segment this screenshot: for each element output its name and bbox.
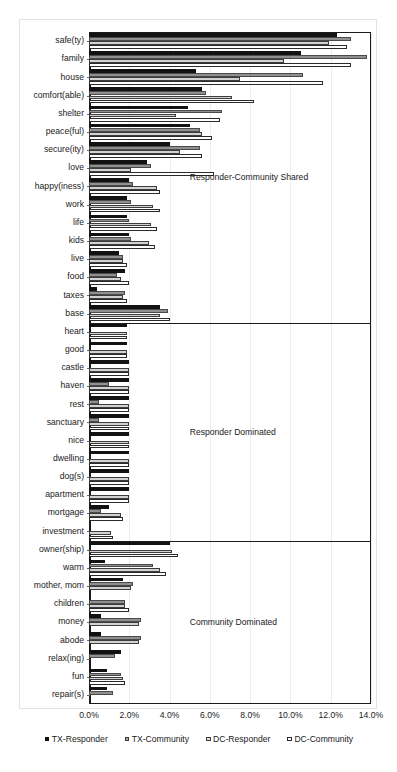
group-separator bbox=[89, 541, 371, 543]
y-axis-label: secure(ity) bbox=[6, 145, 84, 154]
bar-dc-responder bbox=[89, 640, 139, 644]
bar-tx-responder bbox=[89, 451, 129, 455]
bar-tx-responder bbox=[89, 469, 129, 473]
y-axis-label: mortgage bbox=[6, 508, 84, 517]
y-axis-label: abode bbox=[6, 636, 84, 645]
bar-row: mortgage bbox=[20, 504, 378, 522]
bar-tx-community bbox=[89, 654, 115, 658]
bar-dc-community bbox=[89, 463, 129, 467]
bar-row: heart bbox=[20, 323, 378, 341]
bar-dc-community bbox=[89, 536, 113, 540]
bar-row: shelter bbox=[20, 105, 378, 123]
y-axis-label: castle bbox=[6, 363, 84, 372]
bar-dc-community bbox=[89, 572, 166, 576]
legend-swatch-icon bbox=[125, 737, 130, 742]
y-axis-label: life bbox=[6, 218, 84, 227]
bar-row: family bbox=[20, 50, 378, 68]
x-axis-tick-label: 10.0% bbox=[278, 710, 302, 720]
legend-label: DC-Responder bbox=[213, 734, 270, 744]
bar-dc-community bbox=[89, 336, 127, 340]
bar-dc-community bbox=[89, 263, 127, 267]
bar-row: comfort(able) bbox=[20, 86, 378, 104]
legend-swatch-icon bbox=[287, 737, 292, 742]
y-axis-label: investment bbox=[6, 527, 84, 536]
bar-dc-community bbox=[89, 681, 125, 685]
legend-item[interactable]: TX-Responder bbox=[45, 734, 108, 744]
bar-row: children bbox=[20, 595, 378, 613]
legend-swatch-icon bbox=[45, 737, 50, 742]
bar-dc-community bbox=[89, 354, 127, 358]
y-axis-label: fun bbox=[6, 672, 84, 681]
x-axis-tick-label: 2.0% bbox=[119, 710, 139, 720]
y-axis-label: children bbox=[6, 599, 84, 608]
legend-label: TX-Responder bbox=[52, 734, 108, 744]
y-axis-tick bbox=[87, 695, 90, 696]
bar-dc-community bbox=[89, 63, 351, 67]
bar-dc-community bbox=[89, 45, 347, 49]
legend-item[interactable]: DC-Responder bbox=[206, 734, 270, 744]
chart-container: safe(ty)familyhousecomfort(able)shelterp… bbox=[19, 19, 377, 709]
y-axis-label: nice bbox=[6, 436, 84, 445]
bar-row: repair(s) bbox=[20, 686, 378, 704]
y-axis-label: haven bbox=[6, 381, 84, 390]
y-axis-label: warm bbox=[6, 563, 84, 572]
bar-dc-community bbox=[89, 227, 157, 231]
bar-row: work bbox=[20, 195, 378, 213]
legend-item[interactable]: DC-Community bbox=[287, 734, 353, 744]
bar-row: kids bbox=[20, 232, 378, 250]
bar-row: investment bbox=[20, 522, 378, 540]
group-separator bbox=[89, 323, 371, 325]
bar-row: fun bbox=[20, 668, 378, 686]
y-axis-label: good bbox=[6, 345, 84, 354]
bar-dc-community bbox=[89, 81, 323, 85]
y-axis-label: heart bbox=[6, 327, 84, 336]
y-axis-label: live bbox=[6, 254, 84, 263]
bar-row: rest bbox=[20, 395, 378, 413]
y-axis-label: work bbox=[6, 200, 84, 209]
y-axis-label: money bbox=[6, 617, 84, 626]
bar-dc-community bbox=[89, 372, 129, 376]
bar-dc-community bbox=[89, 100, 254, 104]
y-axis-label: safe(ty) bbox=[6, 36, 84, 45]
legend-swatch-icon bbox=[206, 737, 211, 742]
bar-row: base bbox=[20, 304, 378, 322]
bar-dc-community bbox=[89, 190, 160, 194]
y-axis-label: owner(ship) bbox=[6, 545, 84, 554]
x-axis-tick-label: 14.0% bbox=[359, 710, 383, 720]
bar-row: food bbox=[20, 268, 378, 286]
bar-tx-responder bbox=[89, 342, 127, 346]
x-axis-tick-label: 6.0% bbox=[200, 710, 220, 720]
bar-row: live bbox=[20, 250, 378, 268]
legend-item[interactable]: TX-Community bbox=[125, 734, 189, 744]
bar-row: owner(ship) bbox=[20, 541, 378, 559]
bar-dc-responder bbox=[89, 622, 139, 626]
bar-row: taxes bbox=[20, 286, 378, 304]
plot-area: safe(ty)familyhousecomfort(able)shelterp… bbox=[20, 20, 378, 710]
bar-row: relax(ing) bbox=[20, 650, 378, 668]
bar-row: peace(ful) bbox=[20, 123, 378, 141]
bar-row: dog(s) bbox=[20, 468, 378, 486]
bar-dc-community bbox=[89, 281, 129, 285]
y-axis-label: family bbox=[6, 54, 84, 63]
bar-row: good bbox=[20, 341, 378, 359]
bar-tx-responder bbox=[89, 487, 129, 491]
x-axis-tick-label: 4.0% bbox=[160, 710, 180, 720]
bar-row: house bbox=[20, 68, 378, 86]
bar-tx-responder bbox=[89, 432, 129, 436]
x-axis-tick-label: 12.0% bbox=[319, 710, 343, 720]
y-axis-label: comfort(able) bbox=[6, 91, 84, 100]
y-axis-label: kids bbox=[6, 236, 84, 245]
bar-dc-community bbox=[89, 245, 155, 249]
bar-row: warm bbox=[20, 559, 378, 577]
y-axis-label: love bbox=[6, 163, 84, 172]
group-annotation: Responder-Community Shared bbox=[190, 172, 308, 182]
bar-dc-responder bbox=[89, 586, 131, 590]
bar-dc-community bbox=[89, 408, 129, 412]
y-axis-label: dog(s) bbox=[6, 472, 84, 481]
y-axis-label: repair(s) bbox=[6, 690, 84, 699]
y-axis-label: base bbox=[6, 309, 84, 318]
bar-row: apartment bbox=[20, 486, 378, 504]
bar-row: life bbox=[20, 214, 378, 232]
y-axis-label: dwelling bbox=[6, 454, 84, 463]
bar-dc-community bbox=[89, 481, 129, 485]
